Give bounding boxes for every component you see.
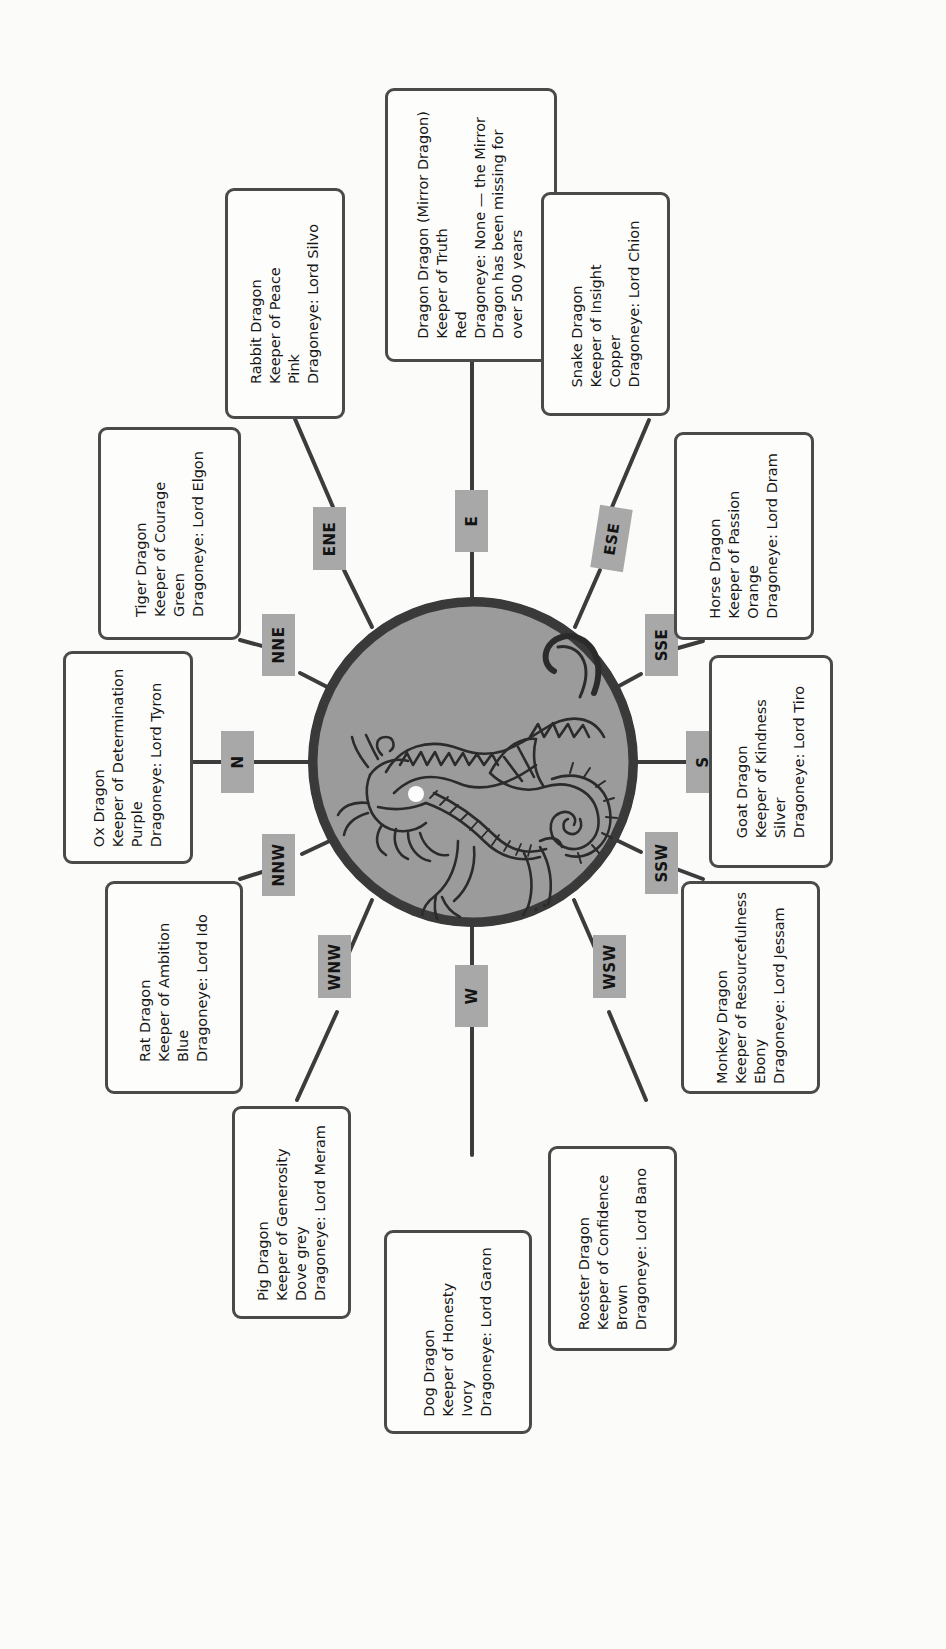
dragon-card-ox-text: Ox Dragon Keeper of Determination Purple… xyxy=(90,668,165,846)
dragon-card-goat[interactable]: Goat Dragon Keeper of Kindness Silver Dr… xyxy=(709,655,833,868)
dragon-card-rabbit-text: Rabbit Dragon Keeper of Peace Pink Drago… xyxy=(247,223,322,383)
dragon-compass-diagram: E ENE NNE N NNW WNW W WSW SSW S SSE ESE … xyxy=(0,0,946,1649)
dragon-card-rooster[interactable]: Rooster Dragon Keeper of Confidence Brow… xyxy=(548,1146,677,1351)
compass-tag-n-label: N xyxy=(229,755,247,768)
compass-tag-sse-label: SSE xyxy=(653,629,671,662)
compass-tag-ese-label: ESE xyxy=(600,521,623,556)
compass-tag-wsw-label: WSW xyxy=(601,944,619,989)
dragon-card-tiger-text: Tiger Dragon Keeper of Courage Green Dra… xyxy=(132,451,207,617)
compass-tag-ese[interactable]: ESE xyxy=(590,505,632,572)
compass-tag-wnw-label: WNW xyxy=(326,943,344,990)
compass-tag-wnw[interactable]: WNW xyxy=(318,935,351,998)
compass-tag-w-label: W xyxy=(463,987,481,1004)
dragon-card-horse[interactable]: Horse Dragon Keeper of Passion Orange Dr… xyxy=(674,432,814,640)
dragon-card-goat-text: Goat Dragon Keeper of Kindness Silver Dr… xyxy=(733,685,808,837)
dragon-card-monkey-text: Monkey Dragon Keeper of Resourcefulness … xyxy=(713,892,788,1084)
dragon-card-tiger[interactable]: Tiger Dragon Keeper of Courage Green Dra… xyxy=(98,427,241,640)
dragon-card-horse-text: Horse Dragon Keeper of Passion Orange Dr… xyxy=(706,453,781,619)
compass-tag-w[interactable]: W xyxy=(455,965,488,1027)
dragon-card-dog[interactable]: Dog Dragon Keeper of Honesty Ivory Drago… xyxy=(384,1230,532,1434)
dragon-card-monkey[interactable]: Monkey Dragon Keeper of Resourcefulness … xyxy=(681,881,820,1094)
dragon-card-snake-text: Snake Dragon Keeper of Insight Copper Dr… xyxy=(568,221,643,388)
dragon-card-dragon-text: Dragon Dragon (Mirror Dragon) Keeper of … xyxy=(414,111,527,339)
dragon-card-pig[interactable]: Pig Dragon Keeper of Generosity Dove gre… xyxy=(232,1106,351,1319)
compass-tag-nnw[interactable]: NNW xyxy=(262,834,295,896)
dragon-card-snake[interactable]: Snake Dragon Keeper of Insight Copper Dr… xyxy=(541,192,670,416)
dragon-card-rooster-text: Rooster Dragon Keeper of Confidence Brow… xyxy=(575,1167,650,1329)
dragon-card-dragon[interactable]: Dragon Dragon (Mirror Dragon) Keeper of … xyxy=(385,88,557,362)
compass-tag-ene[interactable]: ENE xyxy=(313,507,346,570)
dragon-medallion xyxy=(308,597,638,927)
compass-tag-nne[interactable]: NNE xyxy=(262,614,295,676)
compass-tag-n[interactable]: N xyxy=(221,731,254,793)
dragon-card-rat-text: Rat Dragon Keeper of Ambition Blue Drago… xyxy=(136,914,211,1062)
compass-tag-ene-label: ENE xyxy=(321,521,339,556)
compass-tag-ssw[interactable]: SSW xyxy=(645,832,678,894)
dragon-card-pig-text: Pig Dragon Keeper of Generosity Dove gre… xyxy=(254,1125,329,1301)
compass-tag-wsw[interactable]: WSW xyxy=(593,935,626,998)
compass-tag-e-label: E xyxy=(463,516,481,527)
compass-tag-e[interactable]: E xyxy=(455,490,488,552)
dragon-card-rat[interactable]: Rat Dragon Keeper of Ambition Blue Drago… xyxy=(105,881,243,1094)
dragon-card-rabbit[interactable]: Rabbit Dragon Keeper of Peace Pink Drago… xyxy=(225,188,345,419)
compass-tag-ssw-label: SSW xyxy=(653,844,671,883)
dragon-card-ox[interactable]: Ox Dragon Keeper of Determination Purple… xyxy=(63,651,193,864)
compass-tag-nnw-label: NNW xyxy=(270,843,288,886)
dragon-card-dog-text: Dog Dragon Keeper of Honesty Ivory Drago… xyxy=(420,1247,495,1416)
dragon-illustration xyxy=(308,597,638,927)
compass-tag-nne-label: NNE xyxy=(270,627,288,664)
